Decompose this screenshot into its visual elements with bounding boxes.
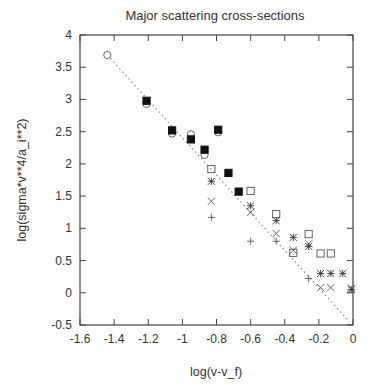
plot-area <box>80 35 355 325</box>
series-square-filled <box>143 97 242 195</box>
x-tick-label: -1 <box>177 332 188 346</box>
data-point <box>247 187 254 194</box>
y-axis-label: log(sigma*v**4/a_i**2) <box>15 119 29 242</box>
data-point <box>273 211 280 218</box>
x-tick-label: -1.2 <box>138 332 159 346</box>
y-tick-label: 3 <box>65 92 72 106</box>
x-tick-label: -1.6 <box>70 332 91 346</box>
data-point <box>201 146 208 153</box>
data-point <box>208 198 215 205</box>
data-point <box>317 270 324 277</box>
data-point <box>273 217 280 224</box>
x-tick-label: -1.4 <box>104 332 125 346</box>
y-tick-label: 4 <box>65 28 72 42</box>
data-point <box>348 286 355 293</box>
x-tick-label: -0.2 <box>309 332 330 346</box>
data-point <box>169 127 176 134</box>
y-tick-label: 1 <box>65 221 72 235</box>
series-asterisk <box>208 178 355 293</box>
y-axis: -0.500.511.522.533.54 <box>51 28 353 332</box>
data-point <box>305 275 312 282</box>
data-point <box>290 234 297 241</box>
data-point <box>327 284 334 291</box>
data-point <box>327 270 334 277</box>
y-tick-label: 0 <box>65 286 72 300</box>
data-point <box>247 202 254 209</box>
data-point <box>317 250 324 257</box>
data-point <box>143 97 150 104</box>
data-point <box>235 188 242 195</box>
x-axis-label: log(v-v_f) <box>190 365 242 379</box>
series-circle-open <box>104 51 222 158</box>
y-tick-label: 0.5 <box>55 254 72 268</box>
fit-line <box>107 55 349 322</box>
x-axis: -1.6-1.4-1.2-1-0.8-0.6-0.4-0.20 <box>70 35 357 346</box>
y-tick-label: 3.5 <box>55 60 72 74</box>
chart-title: Major scattering cross-sections <box>125 8 305 23</box>
series-x <box>208 198 355 292</box>
y-tick-label: -0.5 <box>51 318 72 332</box>
y-tick-label: 2.5 <box>55 125 72 139</box>
data-point <box>225 169 232 176</box>
data-point <box>317 284 324 291</box>
series-square-open <box>208 165 335 257</box>
data-point <box>187 136 194 143</box>
scatter-chart: Major scattering cross-sections -1.6-1.4… <box>0 0 371 385</box>
data-point <box>104 51 111 58</box>
data-point <box>215 126 222 133</box>
series-plus <box>208 214 312 282</box>
y-tick-label: 1.5 <box>55 189 72 203</box>
x-tick-label: -0.4 <box>274 332 295 346</box>
data-point <box>247 238 254 245</box>
x-tick-label: -0.8 <box>206 332 227 346</box>
data-point <box>208 178 215 185</box>
data-point <box>339 270 346 277</box>
data-point <box>290 247 297 254</box>
data-point <box>273 230 280 237</box>
data-point <box>208 214 215 221</box>
y-tick-label: 2 <box>65 157 72 171</box>
data-point <box>247 209 254 216</box>
x-tick-label: 0 <box>350 332 357 346</box>
x-tick-label: -0.6 <box>240 332 261 346</box>
plot-frame <box>80 35 353 325</box>
data-point <box>305 231 312 238</box>
data-point <box>327 250 334 257</box>
